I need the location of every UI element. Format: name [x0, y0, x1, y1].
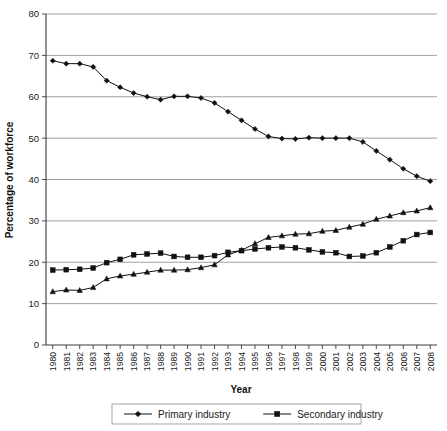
square-marker-icon	[118, 257, 123, 262]
square-marker-icon	[387, 245, 392, 250]
triangle-marker-icon	[90, 285, 95, 290]
x-tick-label: 1995	[250, 352, 260, 371]
x-tick-label: 2004	[372, 352, 382, 371]
x-tick-label: 1980	[48, 352, 58, 371]
y-tick-label: 70	[28, 50, 39, 61]
diamond-marker-icon	[306, 135, 311, 140]
diamond-marker-icon	[333, 136, 338, 141]
square-marker-icon	[64, 267, 69, 272]
diamond-marker-icon	[414, 174, 419, 179]
x-tick-label: 1984	[102, 352, 112, 371]
diamond-marker-icon	[252, 126, 257, 131]
x-tick-label: 1989	[169, 352, 179, 371]
square-marker-icon	[374, 250, 379, 255]
y-axis-title: Percentage of workforce	[4, 121, 15, 238]
line-chart: 01020304050607080 1980198119821983198419…	[0, 0, 447, 431]
x-tick-label: 1994	[237, 352, 247, 371]
diamond-marker-icon	[347, 136, 352, 141]
square-marker-icon	[104, 260, 109, 265]
x-tick-label: 1992	[210, 352, 220, 371]
series-primary-industry	[50, 58, 433, 184]
square-marker-icon	[280, 245, 285, 250]
x-tick-label: 2007	[412, 352, 422, 371]
square-marker-icon	[199, 255, 204, 260]
diamond-marker-icon	[198, 95, 203, 100]
y-tick-label: 30	[28, 215, 39, 226]
diamond-marker-icon	[158, 97, 163, 102]
diamond-marker-icon	[239, 118, 244, 123]
x-tick-label: 2008	[426, 352, 436, 371]
y-tick-label: 10	[28, 298, 39, 309]
x-tick-label: 1998	[291, 352, 301, 371]
y-axis-tick-labels: 01020304050607080	[28, 8, 39, 350]
square-marker-icon	[266, 245, 271, 250]
x-tick-label: 1999	[304, 352, 314, 371]
diamond-marker-icon	[279, 136, 284, 141]
diamond-marker-icon	[225, 109, 230, 114]
legend-label: Secondary industry	[297, 409, 383, 420]
square-marker-icon	[145, 252, 150, 257]
diamond-marker-icon	[64, 61, 69, 66]
y-tick-label: 60	[28, 91, 39, 102]
triangle-marker-icon	[428, 205, 433, 210]
square-marker-icon	[428, 230, 433, 235]
square-marker-icon	[212, 253, 217, 258]
x-tick-label: 1993	[223, 352, 233, 371]
diamond-marker-icon	[185, 94, 190, 99]
legend-label: Primary industry	[158, 409, 230, 420]
y-tick-label: 80	[28, 8, 39, 19]
diamond-marker-icon	[293, 136, 298, 141]
square-marker-icon	[333, 250, 338, 255]
square-marker-icon	[360, 254, 365, 259]
x-tick-label: 1986	[129, 352, 139, 371]
square-marker-icon	[131, 252, 136, 257]
x-tick-label: 1987	[142, 352, 152, 371]
x-axis-tick-labels: 1980198119821983198419851986198719881989…	[48, 345, 436, 371]
square-marker-icon	[414, 232, 419, 237]
x-tick-label: 2002	[345, 352, 355, 371]
y-tick-label: 40	[28, 174, 39, 185]
diamond-marker-icon	[320, 136, 325, 141]
chart-canvas: 01020304050607080 1980198119821983198419…	[0, 0, 447, 431]
chart-legend: Primary industrySecondary industry	[112, 404, 383, 424]
diamond-marker-icon	[50, 58, 55, 63]
x-tick-label: 2003	[358, 352, 368, 371]
square-marker-icon	[50, 268, 55, 273]
diamond-marker-icon	[212, 100, 217, 105]
data-series-group	[50, 58, 433, 294]
square-marker-icon	[158, 251, 163, 256]
x-tick-label: 1988	[156, 352, 166, 371]
x-tick-label: 1982	[75, 352, 85, 371]
square-marker-icon	[275, 411, 280, 416]
diamond-marker-icon	[131, 90, 136, 95]
square-marker-icon	[172, 254, 177, 259]
diamond-marker-icon	[118, 85, 123, 90]
chart-container: 01020304050607080 1980198119821983198419…	[0, 0, 447, 431]
square-marker-icon	[307, 247, 312, 252]
series-unlabeled-2	[50, 205, 433, 294]
square-marker-icon	[253, 247, 258, 252]
x-tick-label: 2001	[331, 352, 341, 371]
square-marker-icon	[347, 254, 352, 259]
x-tick-label: 1990	[183, 352, 193, 371]
square-marker-icon	[185, 255, 190, 260]
x-tick-label: 2005	[385, 352, 395, 371]
x-tick-label: 1983	[88, 352, 98, 371]
x-tick-label: 1991	[196, 352, 206, 371]
x-tick-label: 1981	[62, 352, 72, 371]
square-marker-icon	[320, 250, 325, 255]
gridlines-group	[42, 14, 437, 345]
y-tick-label: 50	[28, 133, 39, 144]
y-tick-label: 0	[34, 339, 39, 350]
square-marker-icon	[401, 238, 406, 243]
square-marker-icon	[77, 267, 82, 272]
x-tick-label: 1985	[115, 352, 125, 371]
y-tick-label: 20	[28, 257, 39, 268]
x-tick-label: 1997	[277, 352, 287, 371]
diamond-marker-icon	[77, 61, 82, 66]
square-marker-icon	[293, 245, 298, 250]
x-axis-title: Year	[230, 384, 251, 395]
square-marker-icon	[91, 266, 96, 271]
x-tick-label: 2000	[318, 352, 328, 371]
x-tick-label: 1996	[264, 352, 274, 371]
